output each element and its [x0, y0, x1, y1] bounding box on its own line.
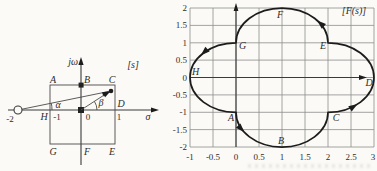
s-plane-title: [s]: [127, 59, 139, 70]
jw-axis-label: jω: [66, 56, 78, 67]
fs-point-a-label: A: [227, 112, 235, 123]
tick-minus1: -1: [53, 112, 61, 122]
alpha-label: α: [55, 99, 61, 110]
point-b-marker-icon: [79, 83, 84, 88]
tick-minus2: -2: [6, 114, 14, 124]
x-tick-labels: -1 -0.5 0 0.5 1 1.5 2 2.5 3: [186, 152, 376, 162]
svg-text:0: 0: [183, 73, 188, 83]
tick-zero: 0: [86, 112, 91, 122]
point-e-label: E: [108, 146, 115, 157]
svg-text:0.5: 0.5: [176, 55, 188, 65]
svg-text:2.5: 2.5: [345, 152, 357, 162]
zero-marker-icon: [14, 106, 22, 114]
svg-text:-0.5: -0.5: [206, 152, 221, 162]
sigma-axis-arrow-icon: [151, 107, 159, 112]
svg-text:1.5: 1.5: [299, 152, 311, 162]
sigma-axis-label: σ: [146, 111, 152, 122]
s-plane-plot: [s] jω σ A B C D E F G H -2 -1 0 1 α β: [0, 0, 168, 171]
fs-point-d-label: D: [364, 77, 373, 88]
fs-point-c-label: C: [333, 112, 340, 123]
point-c-label: C: [109, 74, 116, 85]
fs-point-h-label: H: [191, 66, 200, 77]
illegible-caption-remnant: [248, 164, 370, 168]
figure-canvas: [s] jω σ A B C D E F G H -2 -1 0 1 α β: [0, 0, 377, 171]
alpha-angle-arc: [51, 103, 52, 110]
fs-point-e-label: E: [319, 40, 326, 51]
svg-text:1: 1: [183, 38, 188, 48]
point-f-label: F: [83, 146, 91, 157]
test-point-dot-icon: [109, 89, 114, 94]
svg-text:3: 3: [371, 152, 376, 162]
svg-text:1: 1: [280, 152, 285, 162]
svg-text:-1: -1: [180, 107, 188, 117]
svg-text:-0.5: -0.5: [173, 90, 188, 100]
point-h-label: H: [39, 111, 48, 122]
fs-point-g-label: G: [239, 40, 246, 51]
point-b-label: B: [84, 74, 90, 85]
svg-text:1.5: 1.5: [176, 20, 188, 30]
svg-text:2: 2: [183, 3, 188, 13]
v-axis-arrow-icon: [234, 3, 239, 11]
svg-text:0: 0: [234, 152, 239, 162]
point-g-label: G: [49, 146, 56, 157]
y-tick-labels: 2 1.5 1 0.5 0 -0.5 -1 -1.5 -2: [173, 3, 188, 152]
svg-text:-2: -2: [180, 142, 188, 152]
tick-one: 1: [117, 112, 122, 122]
fs-plane-plot: [F(s)] A B C D E F G H 2 1.5 1 0.5 0 -0.…: [168, 0, 377, 171]
fs-plane-title: [F(s)]: [342, 5, 367, 17]
jw-axis-arrow-icon: [78, 57, 83, 65]
svg-text:-1: -1: [186, 152, 194, 162]
beta-angle-arc: [95, 102, 98, 111]
fs-point-f-label: F: [276, 9, 284, 20]
beta-label: β: [98, 97, 104, 108]
fs-point-b-label: B: [278, 135, 284, 146]
svg-text:2: 2: [326, 152, 331, 162]
point-a-label: A: [49, 74, 57, 85]
point-d-label: D: [117, 98, 126, 109]
svg-text:0.5: 0.5: [253, 152, 265, 162]
svg-text:-1.5: -1.5: [173, 125, 188, 135]
curve-arrow-cd-icon: [348, 101, 359, 111]
